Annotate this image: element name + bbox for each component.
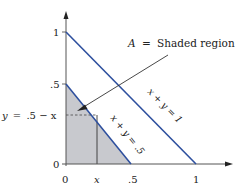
y-label-half: .5 [50, 79, 60, 90]
x-axis-arrow-icon [225, 162, 233, 167]
x-label-half: .5 [128, 174, 138, 185]
y-label-1: 1 [53, 27, 59, 38]
x-label-x: x [94, 174, 100, 185]
y-axis-arrow-icon [64, 11, 69, 19]
guide-label: y = .5 − x [1, 110, 57, 121]
region-diagram: A = Shaded region x + y = 1 x + y = .5 1… [0, 0, 246, 192]
x-label-1: 1 [193, 174, 199, 185]
x-label-0: 0 [62, 174, 68, 185]
callout-label: A = Shaded region [127, 37, 235, 49]
y-label-0: 0 [53, 159, 59, 170]
